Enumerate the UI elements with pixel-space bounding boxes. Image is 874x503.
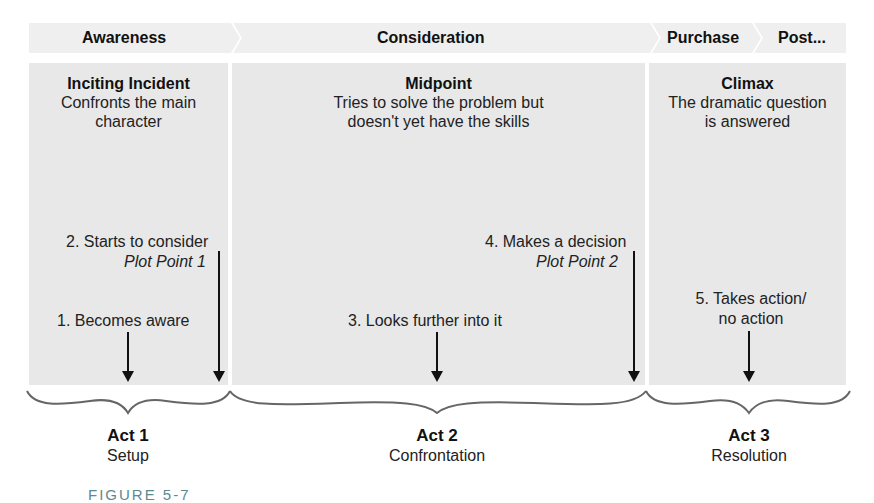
stage-purchase: Purchase — [667, 23, 739, 53]
act-1-title: Act 1 — [78, 426, 178, 446]
step-2-label: 2. Starts to consider — [66, 232, 208, 251]
act-3-subtitle: Resolution — [689, 447, 809, 465]
plot-point-2-label: Plot Point 2 — [536, 252, 618, 271]
act-2-subtitle: Confrontation — [367, 447, 507, 465]
step-4-label: 4. Makes a decision — [485, 232, 626, 251]
stage-awareness: Awareness — [82, 23, 166, 53]
panel-title-inciting-incident: Inciting Incident — [29, 74, 228, 93]
act-braces — [0, 385, 874, 425]
panel-title-midpoint: Midpoint — [232, 74, 645, 93]
brace-act1 — [27, 391, 230, 413]
arrow-down-icon — [748, 331, 750, 372]
arrow-down-icon — [436, 332, 438, 372]
panel-desc-line: character — [29, 112, 228, 131]
plot-point-1-label: Plot Point 1 — [124, 252, 206, 271]
act-2-title: Act 2 — [377, 426, 497, 446]
panel-title-climax: Climax — [649, 74, 846, 93]
step-1-label: 1. Becomes aware — [57, 311, 190, 330]
panel-desc-line: The dramatic question — [649, 93, 846, 112]
arrow-head-icon — [628, 371, 640, 382]
arrow-down-icon — [633, 251, 635, 372]
step-5-label-line2: no action — [686, 309, 816, 328]
arrow-head-icon — [122, 371, 134, 382]
brace-act3 — [646, 391, 850, 413]
panel-desc-line: doesn't yet have the skills — [232, 112, 645, 131]
step-5-label: 5. Takes action/ — [686, 289, 816, 308]
panel-act2: Midpoint Tries to solve the problem but … — [232, 63, 645, 385]
panel-desc-line: Confronts the main — [29, 93, 228, 112]
arrow-head-icon — [743, 371, 755, 382]
brace-act2 — [230, 391, 646, 413]
figure-caption: FIGURE 5-7 — [88, 486, 191, 503]
act-3-title: Act 3 — [699, 426, 799, 446]
step-3-label: 3. Looks further into it — [348, 311, 502, 330]
stage-consideration: Consideration — [377, 23, 485, 53]
act-1-subtitle: Setup — [78, 447, 178, 465]
panel-desc-line: Tries to solve the problem but — [232, 93, 645, 112]
stage-post: Post... — [778, 23, 826, 53]
arrow-down-icon — [218, 251, 220, 372]
arrow-down-icon — [127, 332, 129, 372]
panel-desc-line: is answered — [649, 112, 846, 131]
arrow-head-icon — [213, 371, 225, 382]
arrow-head-icon — [431, 371, 443, 382]
